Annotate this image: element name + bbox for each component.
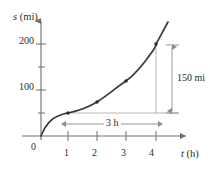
- y-tick-label-200: 200: [19, 36, 34, 46]
- data-point: [95, 100, 98, 103]
- y-axis-unit: (mi): [20, 11, 38, 22]
- horizontal-span-label: 3 h: [104, 118, 121, 128]
- x-axis-variable: t: [181, 148, 184, 159]
- x-tick-label-2: 2: [92, 148, 97, 158]
- x-tick-label-3: 3: [121, 148, 126, 158]
- data-point: [124, 79, 127, 82]
- x-axis-unit: (h): [187, 148, 199, 159]
- data-point: [66, 111, 69, 114]
- origin-label: 0: [31, 142, 36, 152]
- data-point: [154, 42, 157, 45]
- x-axis-title: t (h): [181, 149, 199, 160]
- data-point-markers: [66, 42, 157, 114]
- vertical-span-label: 150 mi: [177, 73, 205, 83]
- position-time-graph-figure: s (mi) t (h) 200 100 0 1 2 3 4 3 h 150 m…: [0, 0, 210, 169]
- y-axis-title: s (mi): [13, 12, 38, 23]
- leader-lines: [64, 45, 178, 113]
- y-axis-variable: s: [13, 11, 17, 22]
- y-tick-label-100: 100: [19, 82, 34, 92]
- x-tick-label-1: 1: [64, 148, 69, 158]
- x-tick-label-4: 4: [149, 148, 154, 158]
